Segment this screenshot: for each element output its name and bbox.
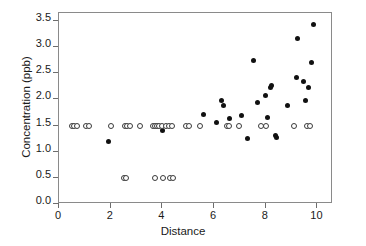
scatter-plot: 0.00.51.01.52.02.53.03.5 0246810 Concent…	[0, 0, 366, 246]
y-tick-label: 3.5	[36, 12, 51, 23]
data-point-open	[197, 123, 203, 129]
x-tick-mark	[161, 203, 162, 208]
data-point-open	[307, 123, 313, 129]
data-point-open	[127, 123, 133, 129]
x-axis-tick: 10	[316, 203, 317, 204]
x-tick-label: 10	[310, 210, 322, 221]
y-tick-label: 1.0	[36, 143, 51, 154]
data-point-filled	[306, 85, 311, 90]
data-point-open	[74, 123, 80, 129]
data-point-open	[186, 123, 192, 129]
y-tick-mark	[53, 125, 58, 126]
x-tick-label: 0	[55, 210, 61, 221]
y-tick-label: 0.5	[36, 169, 51, 180]
data-point-filled	[294, 75, 299, 80]
x-axis-tick: 4	[161, 203, 162, 204]
y-tick-mark	[53, 98, 58, 99]
data-point-open	[291, 123, 297, 129]
x-tick-label: 6	[210, 210, 216, 221]
data-point-filled	[221, 103, 226, 108]
data-point-filled	[239, 113, 244, 118]
data-point-filled	[263, 93, 268, 98]
data-point-open	[108, 123, 114, 129]
x-axis-tick: 6	[213, 203, 214, 204]
data-point-filled	[255, 100, 260, 105]
x-tick-mark	[213, 203, 214, 208]
data-point-open	[236, 123, 242, 129]
data-point-filled	[285, 103, 290, 108]
data-point-open	[137, 123, 143, 129]
y-axis-tick: 0.0	[0, 203, 58, 204]
y-tick-label: 2.0	[36, 90, 51, 101]
data-point-filled	[309, 60, 314, 65]
y-tick-mark	[53, 20, 58, 21]
data-point-open	[169, 123, 175, 129]
data-point-open	[263, 123, 269, 129]
data-point-filled	[274, 135, 279, 140]
y-tick-label: 0.0	[36, 195, 51, 206]
x-axis-tick: 8	[265, 203, 266, 204]
data-point-filled	[227, 116, 232, 121]
x-tick-mark	[265, 203, 266, 208]
y-tick-mark	[53, 177, 58, 178]
data-point-open	[160, 175, 166, 181]
y-tick-mark	[53, 46, 58, 47]
plot-area	[58, 12, 332, 203]
data-point-filled	[295, 36, 300, 41]
data-point-filled	[201, 112, 206, 117]
data-point-open	[123, 175, 129, 181]
y-tick-mark	[53, 72, 58, 73]
x-axis-title: Distance	[0, 225, 366, 237]
y-tick-label: 2.5	[36, 64, 51, 75]
x-tick-label: 4	[158, 210, 164, 221]
x-axis-tick: 0	[58, 203, 59, 204]
y-tick-label: 3.0	[36, 38, 51, 49]
data-point-open	[170, 175, 176, 181]
data-point-open	[226, 123, 232, 129]
data-point-open	[86, 123, 92, 129]
x-tick-mark	[58, 203, 59, 208]
data-point-open	[152, 175, 158, 181]
data-point-filled	[106, 139, 111, 144]
data-point-filled	[303, 98, 308, 103]
data-point-filled	[311, 22, 316, 27]
data-point-filled	[265, 115, 270, 120]
data-point-filled	[251, 58, 256, 63]
x-tick-label: 8	[262, 210, 268, 221]
y-tick-label: 1.5	[36, 117, 51, 128]
data-point-filled	[214, 120, 219, 125]
y-axis-title: Concentration (ppb)	[20, 17, 32, 197]
x-tick-mark	[110, 203, 111, 208]
x-tick-mark	[316, 203, 317, 208]
x-tick-label: 2	[107, 210, 113, 221]
data-point-filled	[160, 128, 165, 133]
data-point-filled	[301, 79, 306, 84]
data-point-filled	[269, 83, 274, 88]
y-tick-mark	[53, 151, 58, 152]
x-axis-tick: 2	[110, 203, 111, 204]
data-point-filled	[245, 136, 250, 141]
